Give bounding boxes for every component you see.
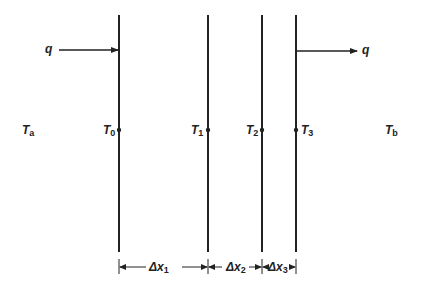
heat-in-label: q — [45, 43, 52, 55]
node-t2-dot — [260, 128, 264, 132]
ambient-left-label: Ta — [22, 124, 34, 139]
dim-dx1-label: Δx1 — [149, 261, 169, 276]
node-t1-dot — [206, 128, 210, 132]
ambient-right-label: Tb — [385, 124, 398, 139]
heat-out-label: q — [362, 44, 369, 56]
diagram-canvas — [0, 0, 423, 290]
node-t1-label: T1 — [191, 124, 203, 139]
dim-dx2-label: Δx2 — [226, 261, 246, 276]
node-t3-label: T3 — [301, 124, 313, 139]
node-t0-dot — [117, 128, 121, 132]
node-t2-label: T2 — [246, 124, 258, 139]
node-t0-label: T0 — [103, 124, 115, 139]
node-t3-dot — [294, 128, 298, 132]
dim-dx3-label: Δx3 — [268, 261, 288, 276]
